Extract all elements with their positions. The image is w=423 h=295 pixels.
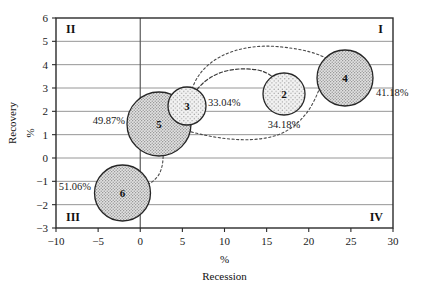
bubble-4-label: 4: [342, 72, 348, 84]
quadrant-label-III: III: [66, 210, 80, 224]
y-tick-label: 6: [43, 12, 49, 24]
bubble-3-label: 3: [184, 100, 190, 112]
x-axis-title: Recession: [202, 270, 247, 282]
bubble-2-label: 2: [281, 88, 287, 100]
bubble-chart: 6 5 4 3 2 1 0 −1 −2 −3 −10 −5 0 5 10 15 …: [0, 0, 423, 295]
x-tick-label: −5: [92, 235, 104, 247]
quadrant-label-IV: IV: [370, 210, 384, 224]
chart-svg: 6 5 4 3 2 1 0 −1 −2 −3 −10 −5 0 5 10 15 …: [0, 0, 423, 295]
x-tick-label: 30: [388, 235, 400, 247]
quadrant-label-II: II: [66, 22, 76, 36]
quadrant-label-I: I: [378, 22, 383, 36]
y-tick-label: −2: [36, 199, 48, 211]
x-tick-label: 20: [303, 235, 315, 247]
y-tick-label: 5: [43, 35, 49, 47]
y-tick-label: 4: [43, 59, 49, 71]
y-axis-tick-labels: 6 5 4 3 2 1 0 −1 −2 −3: [36, 12, 48, 234]
bubble-3-value-label: 33.04%: [208, 97, 241, 108]
bubble-5-label: 5: [156, 118, 162, 130]
bubble-2-group[interactable]: 2 34.18%: [263, 73, 305, 130]
y-axis-unit-label: %: [24, 128, 36, 137]
y-tick-label: −1: [36, 175, 48, 187]
y-tick-label: 3: [43, 82, 49, 94]
x-tick-label: 0: [138, 235, 144, 247]
x-tick-label: 15: [261, 235, 273, 247]
x-axis-unit-label: %: [220, 253, 229, 265]
x-tick-label: 25: [345, 235, 357, 247]
bubble-4-value-label: 41.18%: [376, 87, 409, 98]
bubble-6-label: 6: [120, 187, 126, 199]
bubble-6-value-label: 51.06%: [59, 181, 92, 192]
y-tick-label: 2: [43, 105, 49, 117]
x-tick-label: −10: [47, 235, 65, 247]
x-tick-label: 5: [180, 235, 186, 247]
y-tick-label: −3: [36, 222, 48, 234]
x-axis-tick-labels: −10 −5 0 5 10 15 20 25 30: [47, 235, 399, 247]
y-tick-label: 0: [43, 152, 49, 164]
x-tick-label: 10: [219, 235, 231, 247]
bubble-2-value-label: 34.18%: [268, 119, 301, 130]
y-tick-label: 1: [43, 129, 49, 141]
bubble-4-group[interactable]: 4 41.18%: [317, 50, 409, 106]
bubble-5-value-label: 49.87%: [93, 115, 126, 126]
y-axis-title: Recovery: [6, 101, 18, 144]
